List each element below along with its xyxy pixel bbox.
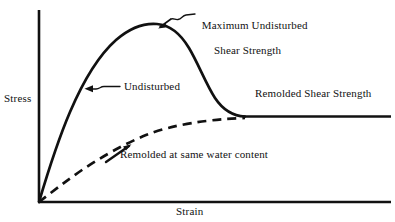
remolded-water-content-label: Remolded at same water content [120,148,268,161]
x-axis-label: Strain [176,205,203,218]
max-undisturbed-line-2: Shear Strength [196,44,308,57]
max-undisturbed-shear-strength-label: Maximum Undisturbed Shear Strength [196,6,308,69]
remolded-shear-strength-label: Remolded Shear Strength [255,87,372,100]
max-undisturbed-line-1: Maximum Undisturbed [202,19,308,31]
undisturbed-label: Undisturbed [124,80,180,93]
y-axis-label: Stress [4,92,31,105]
